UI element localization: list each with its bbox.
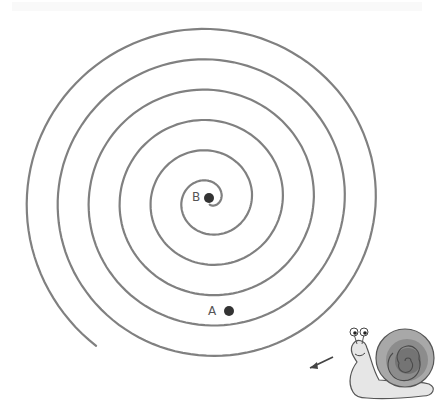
spiral-maze-diagram: AB xyxy=(0,0,445,412)
point-a-marker xyxy=(224,306,234,316)
spiral-path xyxy=(27,29,376,356)
point-a-label: A xyxy=(208,304,217,318)
point-b-label: B xyxy=(192,190,200,204)
point-b-marker xyxy=(204,193,214,203)
direction-arrow-icon xyxy=(310,357,333,369)
spiral-canvas: AB xyxy=(0,0,445,412)
snail-icon xyxy=(350,328,434,399)
